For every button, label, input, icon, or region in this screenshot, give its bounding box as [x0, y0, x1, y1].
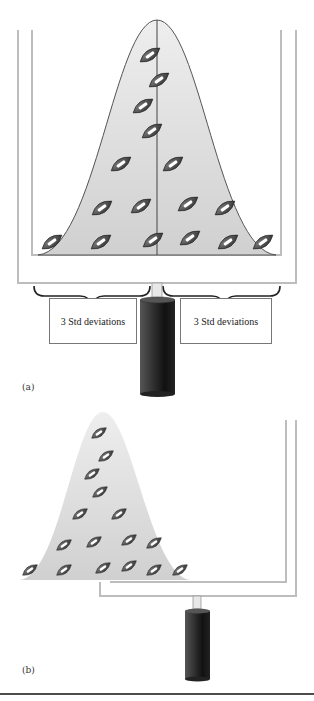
stem-b — [193, 596, 201, 609]
panel-b — [20, 412, 296, 682]
panel-a-label: (a) — [22, 382, 34, 392]
std-dev-label-right: 3 Std deviations — [194, 316, 258, 327]
diagram-canvas — [0, 0, 314, 701]
std-dev-label-left: 3 Std deviations — [61, 316, 125, 327]
cylinder-a — [140, 297, 175, 397]
std-dev-box-left: 3 Std deviations — [49, 298, 137, 344]
cylinder-b — [185, 609, 210, 682]
bell-curve-b — [20, 412, 190, 580]
std-dev-box-right: 3 Std deviations — [180, 298, 272, 344]
stem-a — [152, 283, 162, 298]
panel-b-label: (b) — [22, 665, 35, 675]
